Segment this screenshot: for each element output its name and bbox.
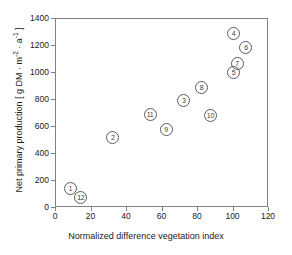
data-point-3: 3 — [177, 94, 190, 107]
x-axis-title: Normalized difference vegetation index — [0, 231, 292, 242]
x-axis-tick-label: 120 — [253, 212, 283, 221]
x-axis-tick-label: 100 — [218, 212, 248, 221]
y-axis-title-text: Net primary production [ g DM · m-2 · a-… — [14, 27, 24, 192]
x-axis-tick — [91, 207, 92, 211]
x-axis-tick — [197, 207, 198, 211]
y-axis-title: Net primary production [ g DM · m-2 · a-… — [8, 10, 22, 210]
x-axis-tick-label: 60 — [147, 212, 177, 221]
data-point-2: 2 — [106, 131, 119, 144]
x-axis-tick-label: 40 — [111, 212, 141, 221]
data-point-10: 10 — [204, 109, 217, 122]
x-axis-tick — [162, 207, 163, 211]
x-axis-tick — [126, 207, 127, 211]
data-point-9: 9 — [160, 123, 173, 136]
x-axis-tick — [233, 207, 234, 211]
x-axis-tick-label: 20 — [76, 212, 106, 221]
x-axis-tick-label: 0 — [40, 212, 70, 221]
x-axis-tick — [55, 207, 56, 211]
plot-area: 123456789101112 — [55, 18, 268, 207]
data-point-8: 8 — [195, 81, 208, 94]
data-point-11: 11 — [144, 108, 157, 121]
data-point-4: 4 — [227, 27, 240, 40]
x-axis-tick-label: 80 — [182, 212, 212, 221]
data-point-7: 7 — [231, 57, 244, 70]
x-axis-tick — [268, 207, 269, 211]
scatter-chart-figure: 0200400600800100012001400 02040608010012… — [0, 0, 292, 255]
data-point-6: 6 — [239, 41, 252, 54]
data-point-12: 12 — [74, 191, 87, 204]
